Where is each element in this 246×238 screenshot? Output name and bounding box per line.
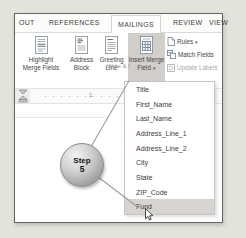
address-block-label-1: Address (67, 56, 96, 64)
tab-references[interactable]: REFERENCES (49, 19, 100, 26)
word-window-screenshot-frame: OUT REFERENCES MAILINGS REVIEW VIEW (14, 13, 223, 223)
menu-item-title[interactable]: Title (125, 82, 214, 97)
ribbon-tab-bar: OUT REFERENCES MAILINGS REVIEW VIEW (15, 14, 222, 33)
update-labels-label: Update Labels (177, 64, 218, 71)
highlight-merge-fields-label-2: Merge Fields (15, 64, 67, 72)
menu-item-last-name[interactable]: Last_Name (125, 111, 214, 126)
menu-item-city[interactable]: City (125, 155, 214, 170)
document-greeting-icon (104, 36, 119, 54)
tab-review[interactable]: REVIEW (173, 19, 202, 26)
rules-icon (167, 37, 175, 46)
tab-mailings[interactable]: MAILINGS (111, 15, 161, 33)
rules-label: Rules (177, 38, 193, 45)
dropdown-arrow-icon: ▾ (153, 65, 156, 71)
address-block-label-2: Block (67, 64, 96, 72)
address-block-button[interactable]: Address Block (67, 33, 96, 81)
insert-merge-field-menu: Title First_Name Last_Name Address_Line_… (124, 81, 215, 215)
menu-item-zip-code[interactable]: ZIP_Code (125, 185, 214, 200)
menu-item-address-line-1[interactable]: Address_Line_1 (125, 126, 214, 141)
document-page-edge (15, 117, 108, 118)
mailings-ribbon: Highlight Merge Fields Address Block (15, 33, 222, 88)
step-badge-number: 5 (80, 165, 85, 174)
tab-mailings-label: MAILINGS (118, 21, 154, 28)
insert-merge-field-label-2: Field ▾ (128, 64, 165, 72)
document-address-icon (74, 36, 89, 54)
document-highlight-icon (34, 36, 49, 54)
rules-dropdown-arrow-icon: ▾ (195, 39, 198, 45)
highlight-merge-fields-button[interactable]: Highlight Merge Fields (15, 33, 67, 81)
menu-item-state[interactable]: State (125, 170, 214, 185)
menu-item-address-line-2[interactable]: Address_Line_2 (125, 141, 214, 156)
rules-button[interactable]: Rules ▾ (167, 37, 198, 46)
match-fields-button[interactable]: Match Fields (167, 50, 214, 59)
insert-merge-field-button[interactable]: Insert Merge Field ▾ (128, 33, 165, 81)
ruler-mark-1: 1 (89, 92, 92, 98)
ribbon-group-label: Write & I (107, 63, 130, 69)
tab-view[interactable]: VIEW (209, 19, 228, 26)
greeting-line-button[interactable]: Greeting Line (96, 33, 127, 81)
update-labels-icon (167, 63, 175, 72)
highlight-merge-fields-label-1: Highlight (15, 56, 67, 64)
tab-layout-partial[interactable]: OUT (19, 19, 35, 26)
step-5-badge: Step 5 (60, 143, 104, 187)
menu-item-fund[interactable]: Fund (125, 199, 214, 214)
indent-markers[interactable] (17, 89, 29, 103)
match-fields-icon (167, 50, 176, 59)
menu-item-first-name[interactable]: First_Name (125, 97, 214, 112)
update-labels-button[interactable]: Update Labels (167, 63, 218, 72)
ribbon-region: OUT REFERENCES MAILINGS REVIEW VIEW (15, 14, 222, 222)
screenshot-root: { "window": { "tabs": [ {"label": "OUT"}… (0, 0, 246, 238)
insert-merge-field-label-1: Insert Merge (128, 56, 165, 64)
document-merge-field-icon (139, 36, 154, 54)
match-fields-label: Match Fields (178, 51, 214, 58)
